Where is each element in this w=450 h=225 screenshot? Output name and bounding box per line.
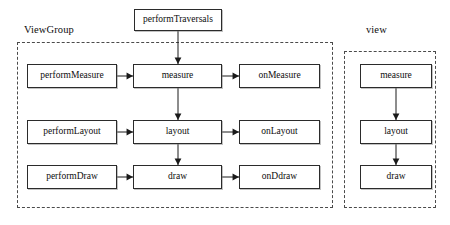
node-view-layout[interactable]: layout — [360, 120, 432, 144]
node-view-measure[interactable]: measure — [360, 64, 432, 88]
node-label-performDraw: performDraw — [46, 172, 98, 183]
node-label-layout: layout — [166, 127, 190, 138]
node-performTraversals[interactable]: performTraversals — [134, 9, 222, 31]
node-label-onMeasure: onMeasure — [258, 71, 300, 82]
node-onMeasure[interactable]: onMeasure — [239, 64, 320, 88]
node-layout[interactable]: layout — [133, 120, 222, 144]
node-label-performMeasure: performMeasure — [40, 71, 103, 82]
node-performLayout[interactable]: performLayout — [27, 120, 117, 144]
node-measure[interactable]: measure — [133, 64, 222, 88]
node-label-view-layout: layout — [384, 127, 408, 138]
node-label-onDdraw: onDdraw — [262, 172, 297, 183]
node-label-draw: draw — [168, 172, 187, 183]
node-label-measure: measure — [162, 71, 194, 82]
diagram-canvas: ViewGroupviewperformTraversalsperformMea… — [0, 0, 450, 225]
node-label-onLayout: onLayout — [261, 127, 297, 138]
node-performMeasure[interactable]: performMeasure — [27, 64, 117, 88]
node-label-performTraversals: performTraversals — [143, 15, 213, 26]
node-performDraw[interactable]: performDraw — [27, 165, 117, 189]
node-onDdraw[interactable]: onDdraw — [239, 165, 320, 189]
node-label-view-measure: measure — [380, 71, 412, 82]
node-label-performLayout: performLayout — [43, 127, 101, 138]
node-draw[interactable]: draw — [133, 165, 222, 189]
node-label-view-draw: draw — [387, 172, 406, 183]
node-view-draw[interactable]: draw — [360, 165, 432, 189]
group-label-viewgroup: ViewGroup — [24, 24, 74, 35]
node-onLayout[interactable]: onLayout — [239, 120, 320, 144]
group-label-view: view — [366, 24, 387, 35]
